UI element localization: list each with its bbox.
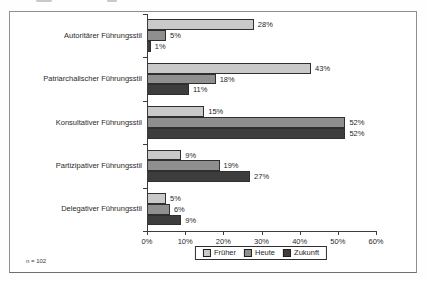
axis-tick-label: 60% <box>361 237 391 246</box>
bar <box>147 160 220 171</box>
bar-value-label: 28% <box>258 20 273 29</box>
sample-size-note: n = 102 <box>26 258 46 264</box>
x-axis-tick <box>338 231 339 235</box>
cropped-text-remnant-right <box>107 0 117 2</box>
legend-swatch <box>244 249 252 257</box>
axis-tick-label: 0% <box>132 237 162 246</box>
category-label: Patriarchalischer Führungsstil <box>12 74 142 84</box>
x-axis-tick <box>300 231 301 235</box>
legend-item: Früher <box>203 249 236 257</box>
y-axis-tick <box>143 14 147 15</box>
x-axis-tick <box>147 231 148 235</box>
bar <box>147 215 181 226</box>
y-axis-tick <box>143 144 147 145</box>
category-label: Delegativer Führungsstil <box>12 204 142 214</box>
bar <box>147 84 189 95</box>
x-axis-tick <box>262 231 263 235</box>
legend-item: Zukunft <box>283 249 319 257</box>
chart-frame: Autoritärer Führungsstil28%5%1%Patriarch… <box>9 11 417 273</box>
plot-area: Autoritärer Führungsstil28%5%1%Patriarch… <box>10 12 416 272</box>
bar-value-label: 43% <box>315 64 330 73</box>
bar <box>147 193 166 204</box>
bar-value-label: 9% <box>185 151 196 160</box>
bar-value-label: 6% <box>174 205 185 214</box>
legend-label: Heute <box>255 249 275 257</box>
legend-swatch <box>203 249 211 257</box>
category-label: Konsultativer Führungsstil <box>12 118 142 128</box>
axis-tick-label: 30% <box>247 237 277 246</box>
axis-tick-label: 50% <box>323 237 353 246</box>
legend-swatch <box>283 249 291 257</box>
bar-value-label: 27% <box>254 172 269 181</box>
cropped-text-remnant-left <box>36 0 52 2</box>
x-axis-tick <box>376 231 377 235</box>
bar <box>147 171 250 182</box>
legend-item: Heute <box>244 249 275 257</box>
x-axis-tick <box>223 231 224 235</box>
bar-value-label: 52% <box>349 129 364 138</box>
bar <box>147 30 166 41</box>
bar-value-label: 1% <box>155 42 166 51</box>
bar <box>147 117 345 128</box>
axis-tick-label: 20% <box>208 237 238 246</box>
legend-label: Früher <box>214 249 236 257</box>
bar-value-label: 15% <box>208 107 223 116</box>
bar <box>147 106 204 117</box>
bar-value-label: 18% <box>220 75 235 84</box>
bar <box>147 19 254 30</box>
axis-tick-label: 10% <box>170 237 200 246</box>
bar-value-label: 5% <box>170 31 181 40</box>
axis-tick-label: 40% <box>285 237 315 246</box>
y-axis <box>147 14 148 232</box>
category-label: Partizipativer Führungsstil <box>12 161 142 171</box>
bar-value-label: 9% <box>185 216 196 225</box>
bar-value-label: 5% <box>170 194 181 203</box>
y-axis-tick <box>143 57 147 58</box>
legend-label: Zukunft <box>294 249 319 257</box>
bar <box>147 128 345 139</box>
legend: FrüherHeuteZukunft <box>195 246 327 260</box>
bar <box>147 150 181 161</box>
y-axis-tick <box>143 101 147 102</box>
bar <box>147 63 311 74</box>
bar-value-label: 19% <box>224 161 239 170</box>
bar-value-label: 11% <box>193 85 207 94</box>
x-axis-tick <box>185 231 186 235</box>
category-label: Autoritärer Führungsstil <box>12 31 142 41</box>
page: { "chart_frame": { "footnote": "n = 102"… <box>0 0 427 282</box>
y-axis-tick <box>143 188 147 189</box>
bar <box>147 204 170 215</box>
bar <box>147 74 216 85</box>
bar-value-label: 52% <box>349 118 364 127</box>
